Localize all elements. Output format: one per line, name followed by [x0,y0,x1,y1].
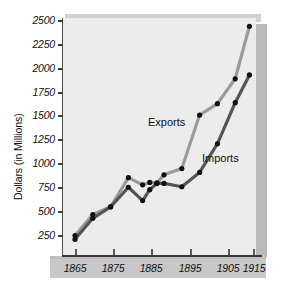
data-point-marker [72,237,77,242]
series-label-imports: Imports [202,152,239,164]
data-point-marker [197,113,202,118]
data-point-marker [154,181,159,186]
data-point-marker [108,204,113,209]
series-lines-svg [0,0,307,293]
data-point-marker [197,170,202,175]
data-point-marker [147,187,152,192]
data-point-marker [247,24,252,29]
data-point-marker [179,166,184,171]
data-point-markers [72,24,252,242]
data-point-marker [161,172,166,177]
data-point-marker [126,185,131,190]
data-point-marker [215,141,220,146]
data-point-marker [233,100,238,105]
series-label-exports: Exports [148,116,185,128]
data-point-marker [233,76,238,81]
data-point-marker [140,182,145,187]
data-point-marker [247,72,252,77]
data-point-marker [126,175,131,180]
data-point-marker [215,101,220,106]
data-point-marker [90,216,95,221]
chart-container: 2500 2250 2000 1750 1500 1250 1000 750 5… [0,0,307,293]
data-point-marker [161,181,166,186]
data-point-marker [140,198,145,203]
data-point-marker [147,180,152,185]
data-point-marker [179,184,184,189]
